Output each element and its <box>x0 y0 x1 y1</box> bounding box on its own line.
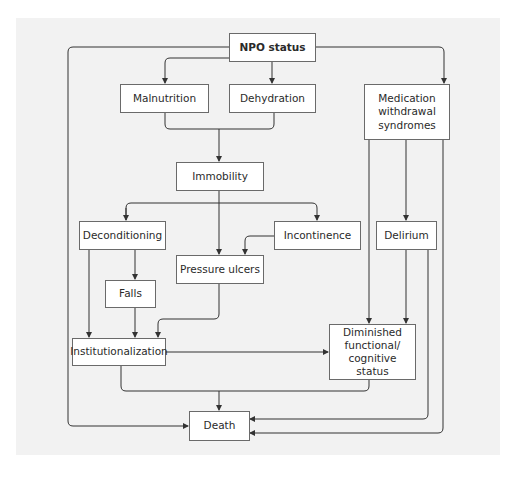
node-label: Dehydration <box>240 92 305 106</box>
edge-npo-malnutrition <box>165 58 229 83</box>
edge-maln-dehyd-join <box>165 112 274 129</box>
node-death: Death <box>189 411 250 441</box>
node-malnutrition: Malnutrition <box>120 84 209 113</box>
node-incontinence: Incontinence <box>274 221 361 250</box>
node-label: Falls <box>119 287 142 301</box>
edge-npo-medication <box>315 47 444 83</box>
node-immobility: Immobility <box>176 162 264 191</box>
node-label: Pressure ulcers <box>180 263 260 277</box>
edge-incontinence-pressure <box>245 236 274 254</box>
node-medication-withdrawal: Medication withdrawal syndromes <box>364 84 450 140</box>
node-delirium: Delirium <box>376 221 437 250</box>
edge-medication-death <box>250 139 443 433</box>
node-diminished-status: Diminished functional/ cognitive status <box>329 324 416 380</box>
node-pressure-ulcers: Pressure ulcers <box>176 255 264 284</box>
edge-pressure-inst <box>158 283 219 337</box>
node-institutionalization: Institutionalization <box>72 338 166 366</box>
node-label: Medication withdrawal syndromes <box>378 92 436 133</box>
node-label: Delirium <box>384 229 429 243</box>
node-dehydration: Dehydration <box>229 84 316 113</box>
node-label: Death <box>204 419 236 433</box>
node-label: Institutionalization <box>70 345 167 359</box>
node-deconditioning: Deconditioning <box>79 221 166 250</box>
node-label: Diminished functional/ cognitive status <box>343 326 402 378</box>
edge-immobility-branch <box>126 203 317 220</box>
node-falls: Falls <box>105 280 156 308</box>
node-label: Malnutrition <box>133 92 196 106</box>
node-label: NPO status <box>239 41 305 55</box>
node-label: Deconditioning <box>83 229 162 243</box>
node-label: Immobility <box>192 170 248 184</box>
node-label: Incontinence <box>284 229 352 243</box>
node-npo-status: NPO status <box>229 33 316 62</box>
